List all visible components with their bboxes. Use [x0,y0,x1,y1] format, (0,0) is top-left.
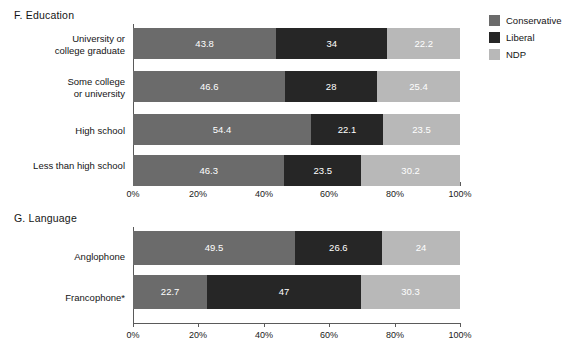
bar-value-label: 30.2 [401,166,420,176]
bar-row: 49.5 26.6 24 [133,231,460,265]
bar-row: 46.3 23.5 30.2 [133,155,460,186]
bar-value-label: 49.5 [205,243,224,253]
category-label-francophone: Francophone* [5,292,125,304]
x-tick-label-80: 80% [386,189,404,199]
bar-segment-ndp: 30.2 [361,155,460,186]
bar-value-label: 22.2 [414,39,433,49]
bar-value-label: 28 [326,82,337,92]
x-tick-20 [198,323,199,327]
panel-language: G. Language Anglophone Francophone* 0% 2… [0,200,582,347]
bar-segment-liberal: 47 [207,275,361,309]
bar-segment-liberal: 34 [276,28,387,59]
bar-segment-conservative: 46.3 [133,155,284,186]
category-label-some-college: Some college or university [5,76,125,99]
bar-segment-conservative: 49.5 [133,231,295,265]
x-tick-label-80: 80% [386,330,404,340]
bar-segment-conservative: 54.4 [133,114,311,145]
bar-segment-ndp: 25.4 [377,71,460,102]
panel-education: F. Education University or college gradu… [0,0,582,200]
bar-segment-liberal: 22.1 [311,114,383,145]
bar-segment-liberal: 26.6 [295,231,382,265]
x-tick-0 [133,323,134,327]
category-label-university: University or college graduate [5,33,125,56]
category-label-high-school: High school [5,125,125,137]
x-tick-label-100: 100% [448,189,471,199]
bar-row: 46.6 28 25.4 [133,71,460,102]
x-tick-label-20: 20% [189,330,207,340]
x-tick-60 [329,323,330,327]
bar-segment-conservative: 43.8 [133,28,276,59]
x-tick-label-60: 60% [320,330,338,340]
x-tick-label-0: 0% [126,330,139,340]
bar-segment-ndp: 23.5 [383,114,460,145]
x-axis-line [133,323,460,324]
bar-value-label: 22.7 [161,287,180,297]
bar-segment-conservative: 22.7 [133,275,207,309]
bar-value-label: 43.8 [195,39,214,49]
bar-row: 54.4 22.1 23.5 [133,114,460,145]
panel-title-education: F. Education [14,9,74,21]
bar-row: 43.8 34 22.2 [133,28,460,59]
bar-value-label: 30.3 [401,287,420,297]
panel-title-language: G. Language [14,212,77,224]
bar-segment-ndp: 24 [382,231,460,265]
x-tick-100 [460,182,461,186]
bar-value-label: 23.5 [314,166,333,176]
bar-value-label: 54.4 [213,125,232,135]
bar-segment-conservative: 46.6 [133,71,285,102]
x-tick-100 [460,323,461,327]
category-label-less-than-high-school: Less than high school [5,160,125,172]
bar-segment-liberal: 28 [285,71,377,102]
bar-value-label: 23.5 [412,125,431,135]
bar-value-label: 34 [327,39,338,49]
bar-segment-ndp: 30.3 [361,275,460,309]
bar-value-label: 26.6 [329,243,348,253]
x-tick-label-0: 0% [126,189,139,199]
bar-value-label: 22.1 [338,125,357,135]
bar-value-label: 47 [279,287,290,297]
bar-row: 22.7 47 30.3 [133,275,460,309]
x-tick-40 [264,323,265,327]
x-tick-label-40: 40% [255,189,273,199]
bar-value-label: 24 [416,243,427,253]
bar-segment-ndp: 22.2 [387,28,460,59]
x-tick-label-60: 60% [320,189,338,199]
category-label-anglophone: Anglophone [5,251,125,263]
x-tick-label-40: 40% [255,330,273,340]
plot-area-language: 0% 20% 40% 60% 80% 100% 49.5 26.6 24 22.… [133,227,460,323]
plot-area-education: 0% 20% 40% 60% 80% 100% 43.8 34 22.2 46.… [133,24,460,182]
x-tick-label-100: 100% [448,330,471,340]
bar-value-label: 46.3 [199,166,218,176]
x-tick-80 [395,323,396,327]
bar-segment-liberal: 23.5 [284,155,361,186]
bar-value-label: 46.6 [200,82,219,92]
x-tick-label-20: 20% [189,189,207,199]
bar-value-label: 25.4 [409,82,428,92]
